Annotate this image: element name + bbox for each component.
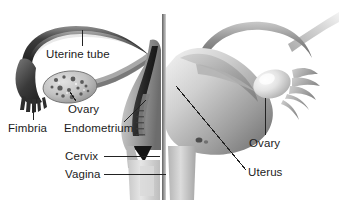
label-vagina: Vagina bbox=[65, 168, 101, 180]
cut-plane-seam bbox=[162, 14, 166, 200]
vagina-right-shape bbox=[168, 146, 196, 200]
label-fimbria: Fimbria bbox=[8, 122, 47, 134]
cervix-mark-right bbox=[196, 137, 203, 142]
label-endometrium: Endometrium bbox=[64, 122, 134, 134]
label-cervix: Cervix bbox=[65, 150, 98, 162]
cervix-mark-right-2 bbox=[204, 140, 208, 143]
anatomy-illustration bbox=[0, 0, 339, 212]
anatomy-figure: Uterine tube Ovary Fimbria Endometrium C… bbox=[0, 0, 339, 212]
vaginal-lumen bbox=[140, 166, 154, 196]
label-ovary-left: Ovary bbox=[68, 103, 99, 115]
label-ovary-right: Ovary bbox=[249, 137, 280, 149]
label-uterine-tube: Uterine tube bbox=[46, 48, 110, 60]
label-uterus: Uterus bbox=[248, 166, 282, 178]
